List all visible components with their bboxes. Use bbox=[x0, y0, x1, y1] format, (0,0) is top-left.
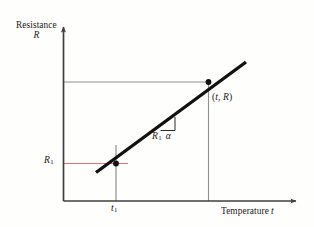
slope-label: R1α bbox=[152, 131, 171, 142]
x-axis-label: Temperaturet bbox=[221, 206, 274, 216]
x-tick-label-t1: t1 bbox=[111, 203, 117, 214]
resistance-line bbox=[96, 62, 246, 173]
y-axis-variable: R bbox=[16, 30, 57, 40]
general-point-marker bbox=[206, 79, 212, 85]
paren-close: ) bbox=[229, 91, 232, 102]
y-tick-label-r1: R1 bbox=[44, 155, 54, 166]
t1-subscript: 1 bbox=[114, 206, 118, 213]
alpha-symbol: α bbox=[162, 130, 171, 141]
general-point-label: (t, R) bbox=[212, 92, 232, 102]
x-axis-variable: t bbox=[269, 205, 274, 216]
reference-point-marker bbox=[113, 161, 119, 167]
y-axis-label: Resistance R bbox=[16, 20, 57, 40]
x-axis-label-text: Temperature bbox=[221, 206, 269, 216]
resistance-temperature-figure: Resistance R Temperaturet (t, R) R1α R1 … bbox=[0, 0, 314, 227]
r1-subscript: 1 bbox=[50, 158, 54, 165]
